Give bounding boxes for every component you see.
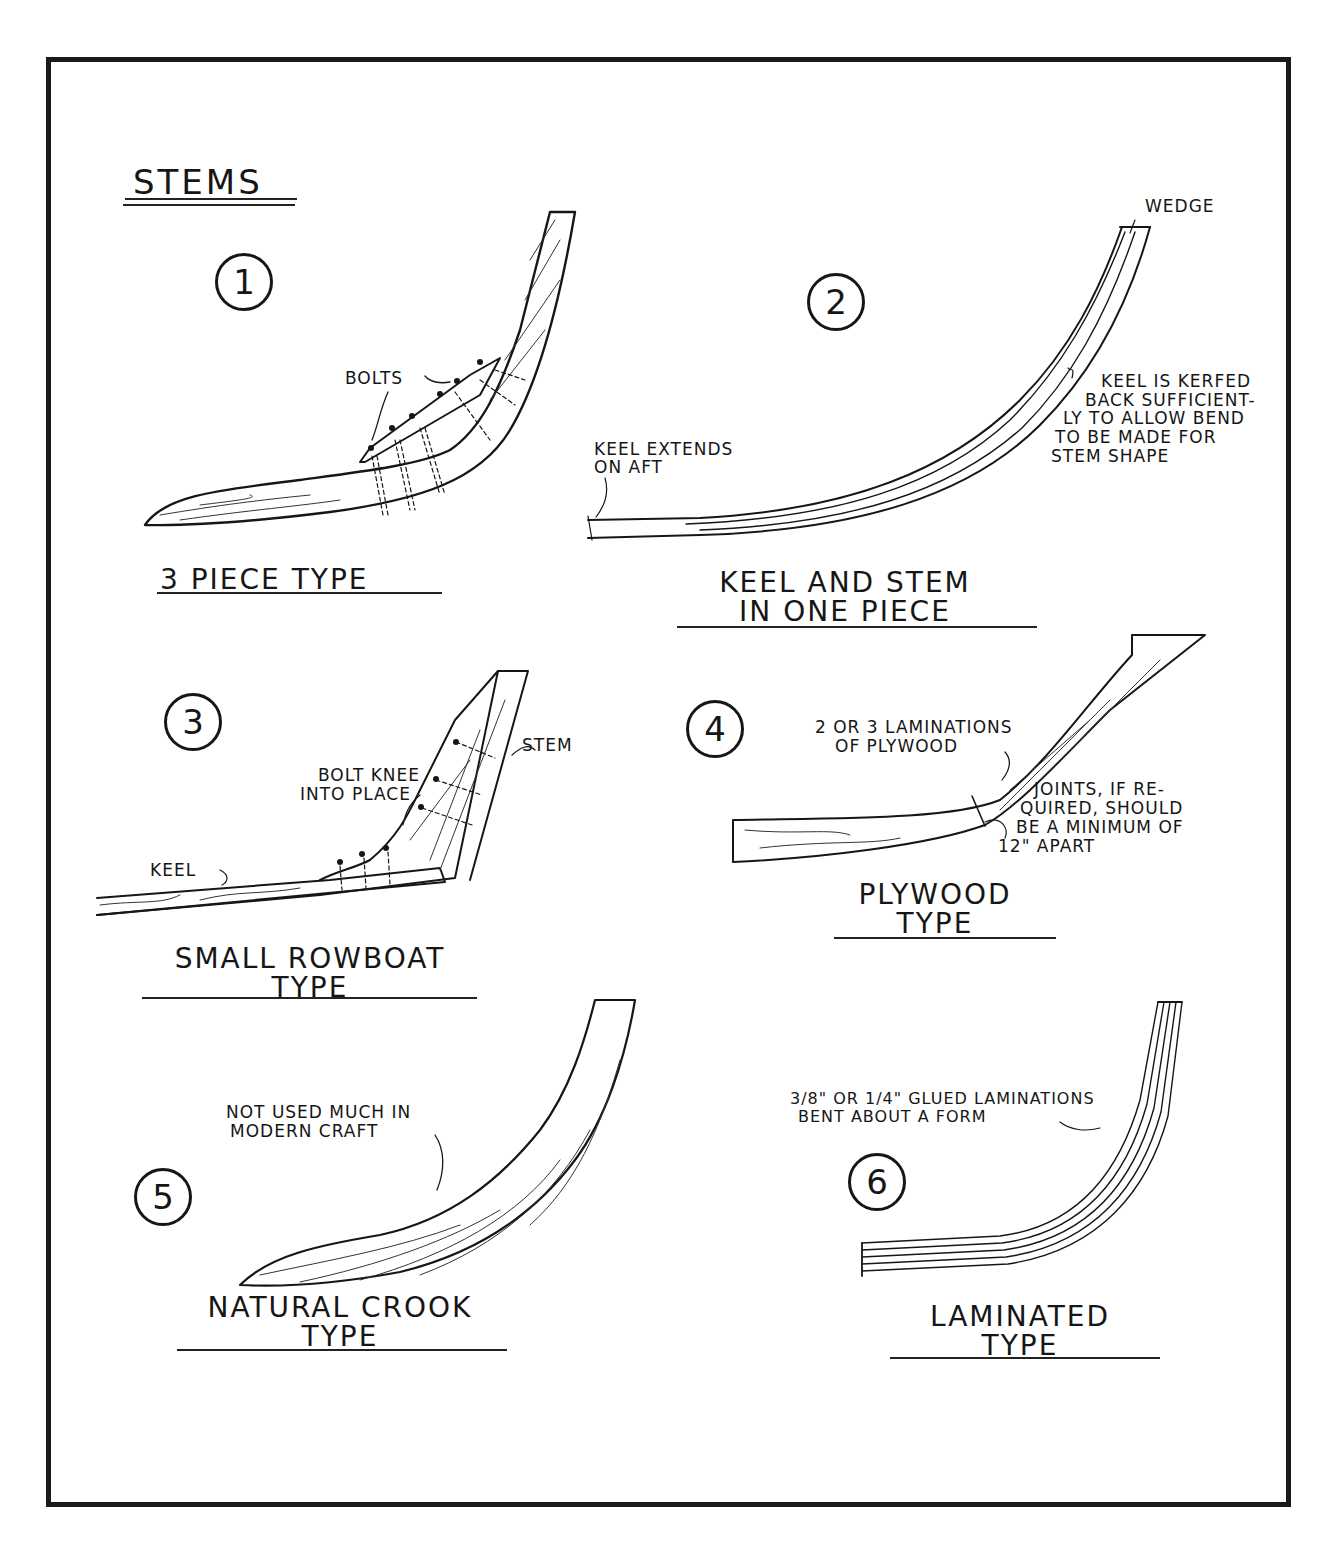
figure-5-drawing: [240, 1000, 635, 1286]
figure-3-caption-underline: [142, 997, 477, 999]
figure-6-caption: LAMINATED TYPE: [900, 1302, 1140, 1361]
figure-4-annotation-joints: JOINTS, IF RE- QUIRED, SHOULD BE A MINIM…: [978, 780, 1184, 856]
figure-4-caption-underline: [834, 937, 1056, 939]
figure-3-annotation-stem: STEM: [522, 737, 573, 755]
figure-5-caption: NATURAL CROOK TYPE: [180, 1293, 500, 1352]
figure-1-caption: 3 PIECE TYPE: [160, 565, 368, 594]
figure-2-annotation-keel-extends: KEEL EXTENDS ON AFT: [594, 441, 733, 477]
figure-2-caption: KEEL AND STEM IN ONE PIECE: [680, 568, 1010, 627]
figure-6-number: 6: [848, 1153, 906, 1211]
figure-2-annotation-wedge: WEDGE: [1145, 198, 1215, 216]
figure-6-annotation-glued-laminations: 3/8" OR 1/4" GLUED LAMINATIONS BENT ABOU…: [790, 1090, 1095, 1125]
figure-1-caption-underline: [157, 592, 442, 594]
title-underline: [123, 204, 295, 206]
figure-2-annotation-kerfed: KEEL IS KERFED BACK SUFFICIENT- LY TO AL…: [1083, 372, 1256, 465]
figure-4-number: 4: [686, 700, 744, 758]
figure-3-annotation-keel: KEEL: [150, 862, 196, 880]
figure-2-drawing: [588, 220, 1150, 540]
figure-3-annotation-bolt-knee: BOLT KNEE INTO PLACE: [300, 766, 420, 803]
figure-3-caption: SMALL ROWBOAT TYPE: [145, 944, 475, 1003]
figure-6-caption-underline: [890, 1357, 1160, 1359]
figure-5-number: 5: [134, 1168, 192, 1226]
figure-1-number: 1: [215, 253, 273, 311]
figure-5-caption-underline: [177, 1349, 507, 1351]
figure-2-caption-underline: [677, 626, 1037, 628]
figure-2-number: 2: [807, 273, 865, 331]
figure-4-caption: PLYWOOD TYPE: [835, 880, 1035, 939]
figure-4-annotation-laminations: 2 OR 3 LAMINATIONS OF PLYWOOD: [815, 718, 1013, 755]
figure-5-annotation-not-used: NOT USED MUCH IN MODERN CRAFT: [226, 1103, 411, 1140]
title-underline: [125, 198, 297, 200]
figure-1-annotation-bolts: BOLTS: [345, 370, 403, 388]
page-title: STEMS: [133, 165, 263, 201]
figure-6-drawing: [862, 1002, 1182, 1276]
figure-3-number: 3: [164, 693, 222, 751]
